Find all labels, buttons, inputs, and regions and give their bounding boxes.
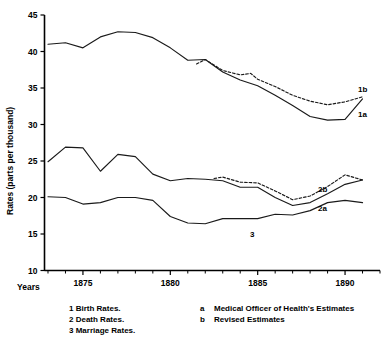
y-tick-label: 35: [28, 83, 38, 93]
x-tick-label: 1890: [336, 278, 355, 288]
legend-key-a: a: [200, 304, 205, 313]
y-axis-tick-labels: 1015202530354045: [28, 10, 38, 276]
x-axis-tick-labels: 1875188018851890: [73, 278, 354, 288]
x-tick-label: 1880: [161, 278, 180, 288]
y-tick-label: 40: [28, 47, 38, 57]
legend-text-b: Revised Estimates: [214, 315, 285, 324]
series-line-3: [48, 197, 363, 224]
y-tick-label: 25: [28, 156, 38, 166]
x-axis-title: Years: [17, 282, 40, 292]
legend-item-birth-rates: 1 Birth Rates.: [69, 304, 121, 313]
chart-container: 1015202530354045 Rates (parts per thousa…: [0, 0, 384, 346]
series-label-2a: 2a: [318, 204, 327, 213]
series-label-3: 3: [250, 230, 255, 239]
x-axis-group: 1875188018851890 Years: [17, 271, 380, 293]
legend-text-a: Medical Officer of Health's Estimates: [214, 304, 355, 313]
x-tick-label: 1885: [248, 278, 267, 288]
series-label-1a: 1a: [358, 110, 367, 119]
legend-item-death-rates: 2 Death Rates.: [69, 315, 124, 324]
series-lines-group: [48, 32, 363, 224]
series-label-1b: 1b: [358, 85, 367, 94]
series-line-2a: [48, 147, 363, 205]
y-tick-label: 20: [28, 193, 38, 203]
y-tick-label: 45: [28, 10, 38, 20]
legend-key-b: b: [200, 315, 205, 324]
y-axis-title: Rates (parts per thousand): [5, 107, 15, 215]
y-tick-label: 15: [28, 229, 38, 239]
line-chart-svg: 1015202530354045 Rates (parts per thousa…: [0, 0, 384, 346]
series-label-2b: 2b: [318, 185, 327, 194]
y-tick-label: 30: [28, 120, 38, 130]
y-axis-group: 1015202530354045 Rates (parts per thousa…: [5, 10, 45, 276]
x-tick-label: 1875: [73, 278, 92, 288]
series-line-1a: [48, 32, 363, 120]
legend-group: 1 Birth Rates. 2 Death Rates. 3 Marriage…: [69, 304, 355, 335]
legend-item-marriage-rates: 3 Marriage Rates.: [69, 326, 135, 335]
y-tick-label: 10: [28, 266, 38, 276]
